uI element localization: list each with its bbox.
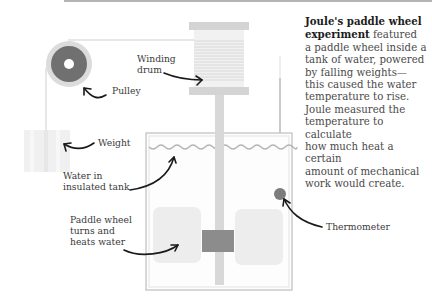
- description-text-rest: featured: [370, 29, 417, 40]
- thermometer-bulb: [274, 188, 286, 200]
- description-line: temperature to rise.: [305, 91, 432, 103]
- description-title-line1: Joule's paddle wheel: [305, 15, 422, 27]
- weight-label: Weight: [98, 137, 131, 148]
- description-line: this caused the water: [305, 79, 432, 91]
- description-line: tank of water, powered: [305, 54, 432, 66]
- weight-icon: [24, 130, 70, 172]
- pulley-label: Pulley: [112, 85, 141, 96]
- description-title-line2: experiment: [305, 28, 370, 40]
- pulley-icon: [46, 41, 92, 87]
- description-line: amount of mechanical: [305, 166, 432, 178]
- paddle-shaft: [215, 95, 224, 285]
- description-line: temperature to calculate: [305, 116, 432, 141]
- description-line: work would create.: [305, 178, 432, 190]
- winding-drum-label: Winding drum: [137, 53, 176, 75]
- thermometer-top: [279, 56, 281, 78]
- water-tank-label: Water in insulated tank: [63, 170, 130, 192]
- paddle-wheel-label: Paddle wheel turns and heats water: [70, 214, 132, 248]
- description-line: how much heat a certain: [305, 141, 432, 166]
- paddle-left: [153, 207, 201, 263]
- pulley-arrow: [84, 88, 106, 98]
- description-line: by falling weights—: [305, 67, 432, 79]
- description-text: Joule's paddle wheel experiment featured…: [305, 15, 432, 191]
- description-line: a paddle wheel inside a: [305, 42, 432, 54]
- thermometer-label: Thermometer: [326, 221, 390, 232]
- paddle-right: [235, 209, 283, 265]
- description-line: Joule measured the: [305, 104, 432, 116]
- paddle-hub: [202, 230, 234, 252]
